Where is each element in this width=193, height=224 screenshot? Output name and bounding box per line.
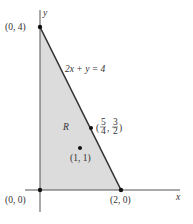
point-0-0 xyxy=(38,188,42,192)
point-label-2-0: (2, 0) xyxy=(110,195,131,206)
point-2-0 xyxy=(119,188,123,192)
svg-text:2: 2 xyxy=(113,126,118,136)
line-equation-label: 2x + y = 4 xyxy=(65,64,106,74)
svg-text:(: ( xyxy=(96,123,99,134)
diagram-canvas: y x (0, 4) (0, 0) (2, 0) (1, 1) 2x + y =… xyxy=(0,0,193,224)
svg-text:,: , xyxy=(107,123,109,133)
point-label-0-4: (0, 4) xyxy=(5,22,26,33)
y-axis-label: y xyxy=(42,8,48,18)
point-1-1 xyxy=(78,146,82,150)
point-5-4-3-2 xyxy=(89,126,93,130)
x-axis-label: x xyxy=(175,192,181,202)
point-label-5-4-3-2: ( 5 4 , 3 2 ) xyxy=(96,117,122,136)
svg-text:4: 4 xyxy=(101,126,106,136)
svg-text:): ) xyxy=(119,123,122,134)
point-label-0-0: (0, 0) xyxy=(5,195,26,206)
region-label: R xyxy=(62,122,69,132)
point-label-1-1: (1, 1) xyxy=(70,153,91,164)
point-0-4 xyxy=(38,25,42,29)
